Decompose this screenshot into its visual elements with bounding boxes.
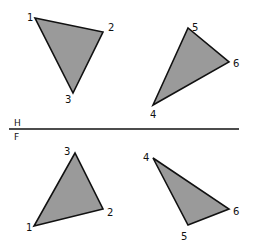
plane-label-f: F xyxy=(14,132,19,142)
triangle-456-top xyxy=(153,28,229,105)
triangle-123-front xyxy=(34,153,103,226)
triangles-layer xyxy=(34,18,229,226)
vertex-label-5: 5 xyxy=(192,22,198,33)
front-view xyxy=(34,153,229,226)
top-view xyxy=(35,18,229,105)
triangle-123-top xyxy=(35,18,103,93)
vertex-label-4: 4 xyxy=(150,109,156,120)
vertex-label-2: 2 xyxy=(107,207,113,218)
vertex-label-1: 1 xyxy=(26,222,32,233)
orthographic-projection-diagram: H F 123456123456 xyxy=(0,0,253,249)
triangle-456-front xyxy=(153,158,229,225)
vertex-label-2: 2 xyxy=(108,22,114,33)
vertex-label-1: 1 xyxy=(27,12,33,23)
vertex-label-5: 5 xyxy=(181,231,187,242)
vertex-label-6: 6 xyxy=(233,206,239,217)
plane-label-h: H xyxy=(14,118,21,128)
vertex-label-3: 3 xyxy=(64,146,70,157)
vertex-label-3: 3 xyxy=(65,94,71,105)
vertex-label-4: 4 xyxy=(143,152,149,163)
vertex-label-6: 6 xyxy=(233,58,239,69)
